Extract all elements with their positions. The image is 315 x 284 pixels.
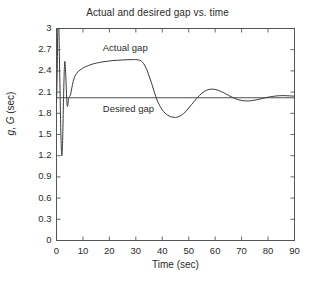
x-tick-label-5: 50	[177, 245, 201, 256]
x-tick-label-0: 0	[45, 245, 69, 256]
y-tick-label-8: 2.4	[26, 64, 52, 75]
x-tick-label-3: 30	[124, 245, 148, 256]
y-tick-label-1: 0.3	[26, 213, 52, 224]
chart-figure: Actual and desired gap vs. time g, G (se…	[0, 0, 315, 284]
x-tick-label-6: 60	[203, 245, 227, 256]
annotation-desired-gap: Desired gap	[103, 103, 154, 114]
y-tick-label-6: 1.8	[26, 107, 52, 118]
y-axis-title-g: g	[5, 130, 16, 136]
x-tick-label-4: 40	[150, 245, 174, 256]
y-tick-label-0: 0	[26, 234, 52, 245]
y-axis-title-units: (sec)	[5, 92, 16, 117]
y-tick-label-2: 0.6	[26, 192, 52, 203]
y-tick-label-7: 2.1	[26, 86, 52, 97]
y-axis-title-G: G	[5, 117, 16, 125]
y-tick-label-5: 1.5	[26, 128, 52, 139]
y-tick-label-3: 0.9	[26, 170, 52, 181]
y-tick-label-10: 3	[26, 22, 52, 33]
x-tick-label-9: 90	[283, 245, 307, 256]
y-axis-title: g, G (sec)	[5, 82, 16, 146]
y-axis-title-comma: ,	[5, 124, 16, 130]
y-tick-label-4: 1.2	[26, 149, 52, 160]
x-axis-title: Time (sec)	[56, 259, 295, 270]
x-tick-label-1: 10	[71, 245, 95, 256]
plot-frame	[57, 29, 295, 241]
y-tick-label-9: 2.7	[26, 43, 52, 54]
x-tick-label-8: 80	[256, 245, 280, 256]
x-tick-label-2: 20	[97, 245, 121, 256]
annotation-actual-gap: Actual gap	[103, 42, 148, 53]
x-tick-label-7: 70	[230, 245, 254, 256]
